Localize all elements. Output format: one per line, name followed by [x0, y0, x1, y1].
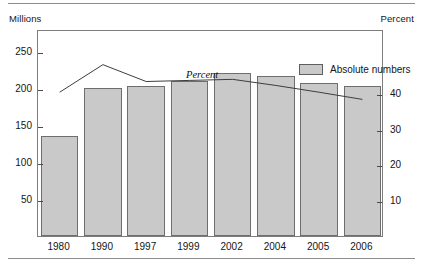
x-axis-label-2004: 2004: [253, 241, 296, 252]
x-axis-label-1990: 1990: [80, 241, 123, 252]
bar-1997: [127, 86, 164, 236]
bar-1990: [84, 88, 121, 236]
left-axis-unit-label: Millions: [9, 13, 41, 24]
left-tick-label-150: 150: [6, 121, 32, 131]
chart-legend: Absolute numbers: [299, 64, 411, 75]
left-tick-150: [38, 127, 43, 128]
right-tick-label-40: 40: [390, 89, 416, 99]
x-axis-label-2006: 2006: [340, 241, 383, 252]
bar-1999: [171, 81, 208, 236]
x-axis-label-2002: 2002: [210, 241, 253, 252]
left-tick-50: [38, 201, 43, 202]
x-axis-label-1999: 1999: [167, 241, 210, 252]
plot-area: Percent Absolute numbers: [37, 30, 383, 237]
plot-inner: [38, 31, 382, 236]
right-tick-20: [377, 166, 382, 167]
right-tick-30: [377, 131, 382, 132]
percent-series-annotation: Percent: [186, 69, 218, 80]
right-tick-label-10: 10: [390, 196, 416, 206]
left-tick-label-200: 200: [6, 84, 32, 94]
x-axis-label-1997: 1997: [124, 241, 167, 252]
bottom-divider-rule: [8, 258, 415, 259]
bar-2006: [344, 86, 381, 236]
x-axis-label-2005: 2005: [297, 241, 340, 252]
left-tick-label-50: 50: [6, 195, 32, 205]
bar-2004: [257, 76, 294, 236]
top-divider-rule: [8, 3, 415, 4]
left-tick-label-250: 250: [6, 47, 32, 57]
left-tick-100: [38, 164, 43, 165]
x-axis-label-1980: 1980: [37, 241, 80, 252]
legend-swatch-absolute-numbers: [299, 64, 323, 75]
right-tick-40: [377, 95, 382, 96]
right-tick-10: [377, 202, 382, 203]
right-tick-label-30: 30: [390, 125, 416, 135]
legend-label-absolute-numbers: Absolute numbers: [330, 64, 411, 75]
figure-container: Millions Percent Percent Absolute number…: [0, 0, 423, 272]
left-tick-250: [38, 53, 43, 54]
left-tick-label-100: 100: [6, 158, 32, 168]
right-tick-label-20: 20: [390, 160, 416, 170]
bar-2005: [300, 83, 337, 236]
bar-1980: [41, 136, 78, 236]
left-tick-200: [38, 90, 43, 91]
bar-2002: [214, 73, 251, 236]
right-axis-unit-label: Percent: [381, 13, 414, 24]
